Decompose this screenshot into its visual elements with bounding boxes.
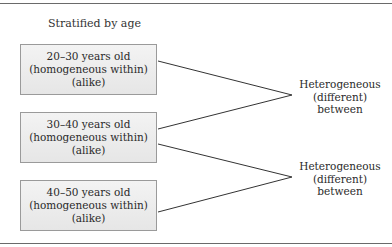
connector-line-2b — [158, 177, 292, 212]
bottom-rule — [0, 243, 392, 244]
comparison-line3: between — [293, 103, 387, 116]
comparison-line1: Heterogeneous — [293, 78, 387, 91]
connector-line-2a — [158, 144, 292, 177]
comparison-label-1: Heterogeneous (different) between — [293, 78, 387, 116]
comparison-line2: (different) — [293, 91, 387, 104]
connector-line-1a — [158, 61, 292, 95]
connector-lines — [0, 0, 392, 247]
comparison-line3: between — [293, 185, 387, 198]
comparison-line1: Heterogeneous — [293, 160, 387, 173]
comparison-line2: (different) — [293, 173, 387, 186]
comparison-label-2: Heterogeneous (different) between — [293, 160, 387, 198]
connector-line-1b — [158, 95, 292, 129]
